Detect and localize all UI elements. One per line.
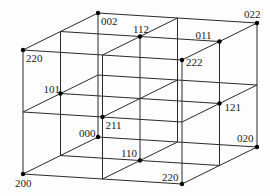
point-label-211: 211 — [106, 119, 122, 131]
point-label-222: 222 — [186, 56, 203, 68]
lattice-point-222 — [180, 58, 184, 62]
point-label-220: 220 — [162, 171, 179, 183]
point-label-112: 112 — [133, 23, 149, 35]
lattice-point-211 — [100, 115, 104, 119]
lattice-point-121 — [217, 101, 221, 105]
lattice-point-220 — [21, 48, 25, 52]
point-label-011: 011 — [196, 29, 212, 41]
lattice-point-020 — [255, 145, 259, 149]
lattice-point-000 — [96, 135, 100, 139]
point-label-121: 121 — [225, 101, 242, 113]
lattice-point-022 — [255, 21, 259, 25]
cube-canvas: 0020221122202220111011212110001100202002… — [0, 0, 270, 196]
point-label-020: 020 — [237, 132, 254, 144]
lattice-point-200 — [21, 172, 25, 176]
lattice-point-112 — [138, 34, 142, 38]
lattice-point-110 — [138, 158, 142, 162]
lattice-point-002 — [96, 11, 100, 15]
point-label-110: 110 — [121, 147, 138, 159]
point-label-220: 220 — [26, 52, 43, 64]
point-label-000: 000 — [79, 127, 96, 139]
lattice-point-011 — [217, 39, 221, 43]
lattice-point-220 — [180, 182, 184, 186]
point-label-002: 002 — [101, 15, 118, 27]
point-label-022: 022 — [244, 8, 261, 20]
point-label-200: 200 — [15, 177, 32, 189]
point-label-101: 101 — [44, 83, 61, 95]
lattice-cube-diagram: 0020221122202220111011212110001100202002… — [0, 0, 270, 196]
